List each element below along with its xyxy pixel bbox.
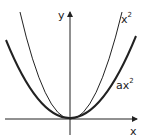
x-squared-label: x2 xyxy=(121,14,132,25)
y-axis-label: y xyxy=(58,10,65,21)
curve-a-x-squared xyxy=(6,36,136,118)
a-x-squared-label: ax2 xyxy=(116,80,134,91)
curve-x-squared xyxy=(20,12,122,119)
x-axis-label: x xyxy=(130,126,137,137)
